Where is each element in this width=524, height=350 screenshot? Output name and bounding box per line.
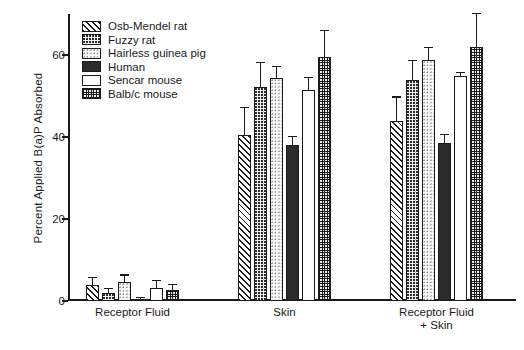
error-bar-line xyxy=(324,31,325,57)
bar[interactable] xyxy=(422,60,435,301)
error-bar-line xyxy=(260,63,261,87)
error-bar-line xyxy=(412,61,413,79)
legend-label: Sencar mouse xyxy=(108,74,182,86)
legend-swatch-icon xyxy=(82,61,101,72)
error-bar-line xyxy=(292,137,293,145)
bar[interactable] xyxy=(134,299,147,301)
error-bar-cap xyxy=(304,77,313,78)
error-bar-line xyxy=(108,289,109,293)
legend-swatch-icon xyxy=(82,34,101,45)
error-bar-line xyxy=(92,278,93,284)
bar[interactable] xyxy=(286,145,299,301)
y-tick-label: 60 xyxy=(25,49,65,61)
error-bar-line xyxy=(244,108,245,135)
bar-slot xyxy=(302,14,315,301)
bar-slot xyxy=(406,14,419,301)
x-group-label: Receptor Fluid + Skin xyxy=(367,306,507,332)
y-axis-title: Percent Applied B(a)P Absorbed xyxy=(32,48,44,268)
bar[interactable] xyxy=(302,90,315,301)
error-bar-line xyxy=(428,48,429,60)
y-tick-label: 0 xyxy=(25,295,65,307)
error-bar-cap xyxy=(320,30,329,31)
bar[interactable] xyxy=(238,135,251,301)
bar[interactable] xyxy=(270,78,283,301)
error-bar-line xyxy=(172,285,173,289)
bar[interactable] xyxy=(318,57,331,301)
error-bar-cap xyxy=(240,107,249,108)
bar-slot xyxy=(286,14,299,301)
bar-slot xyxy=(454,14,467,301)
legend-item[interactable]: Human xyxy=(82,61,206,73)
legend-item[interactable]: Hairless guinea pig xyxy=(82,47,206,59)
bar-slot xyxy=(318,14,331,301)
error-bar-line xyxy=(276,67,277,78)
error-bar-line xyxy=(476,14,477,47)
legend-swatch-icon xyxy=(82,88,101,99)
error-bar-cap xyxy=(88,277,97,278)
bar-slot xyxy=(390,14,403,301)
error-bar-line xyxy=(308,78,309,90)
bar-chart-figure: Percent Applied B(a)P Absorbed 0204060 R… xyxy=(0,0,524,350)
error-bar-cap xyxy=(152,280,161,281)
legend-label: Hairless guinea pig xyxy=(108,47,206,59)
bar[interactable] xyxy=(118,282,131,301)
y-tick-label: 20 xyxy=(25,213,65,225)
error-bar-cap xyxy=(168,284,177,285)
error-bar-cap xyxy=(120,274,129,275)
error-bar-cap xyxy=(288,136,297,137)
error-bar-cap xyxy=(440,134,449,135)
legend: Osb-Mendel ratFuzzy ratHairless guinea p… xyxy=(82,20,206,100)
error-bar-cap xyxy=(256,62,265,63)
error-bar-cap xyxy=(424,47,433,48)
error-bar-cap xyxy=(272,66,281,67)
bar[interactable] xyxy=(470,47,483,301)
bar-slot xyxy=(422,14,435,301)
bar-slot xyxy=(438,14,451,301)
bar[interactable] xyxy=(254,87,267,301)
bar[interactable] xyxy=(438,143,451,301)
error-bar-line xyxy=(444,135,445,143)
bar[interactable] xyxy=(86,285,99,301)
x-group-label: Receptor Fluid xyxy=(63,306,203,319)
bar-slot xyxy=(470,14,483,301)
error-bar-cap xyxy=(392,96,401,97)
error-bar-cap xyxy=(472,13,481,14)
bar[interactable] xyxy=(150,288,163,301)
bar-group-bars xyxy=(238,14,334,301)
error-bar-cap xyxy=(136,297,145,298)
bar[interactable] xyxy=(390,121,403,301)
legend-label: Human xyxy=(108,61,145,73)
y-tick-label: 40 xyxy=(25,131,65,143)
legend-swatch-icon xyxy=(82,21,101,32)
legend-item[interactable]: Balb/c mouse xyxy=(82,88,206,100)
legend-swatch-icon xyxy=(82,75,101,86)
bar[interactable] xyxy=(102,293,115,301)
error-bar-line xyxy=(396,98,397,122)
x-group-label: Skin xyxy=(215,306,355,319)
error-bar-line xyxy=(124,276,125,283)
y-axis-line xyxy=(68,14,70,301)
legend-item[interactable]: Fuzzy rat xyxy=(82,34,206,46)
legend-item[interactable]: Osb-Mendel rat xyxy=(82,20,206,32)
error-bar-line xyxy=(140,298,141,299)
bar-slot xyxy=(270,14,283,301)
error-bar-line xyxy=(156,281,157,288)
error-bar-cap xyxy=(408,60,417,61)
bar-slot xyxy=(254,14,267,301)
legend-item[interactable]: Sencar mouse xyxy=(82,74,206,86)
legend-label: Balb/c mouse xyxy=(108,88,178,100)
legend-label: Fuzzy rat xyxy=(108,34,155,46)
bar[interactable] xyxy=(166,290,179,301)
error-bar-cap xyxy=(104,288,113,289)
bar[interactable] xyxy=(406,80,419,301)
legend-swatch-icon xyxy=(82,48,101,59)
bar-slot xyxy=(238,14,251,301)
legend-label: Osb-Mendel rat xyxy=(108,20,187,32)
error-bar-cap xyxy=(456,72,465,73)
bar-group-bars xyxy=(390,14,486,301)
bar[interactable] xyxy=(454,76,467,301)
error-bar-line xyxy=(460,73,461,76)
